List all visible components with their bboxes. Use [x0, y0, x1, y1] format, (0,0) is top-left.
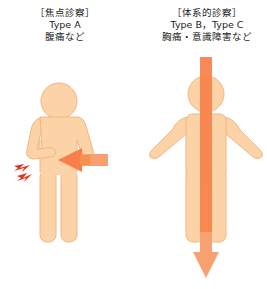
diagram-canvas: [0, 0, 267, 289]
right-arm-right: [224, 117, 263, 159]
pain-lightning-icon: [14, 164, 32, 182]
left-leg-left: [40, 170, 56, 242]
left-head: [41, 83, 77, 119]
left-leg-right: [61, 170, 77, 242]
right-arm-left: [150, 117, 189, 159]
